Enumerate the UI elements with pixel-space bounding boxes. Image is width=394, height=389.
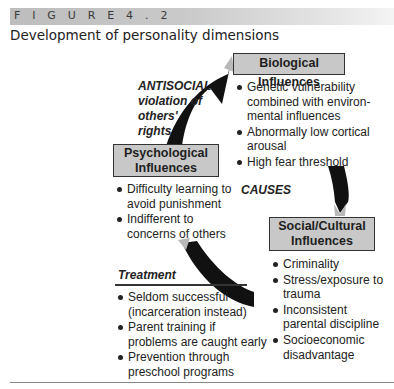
biological-influences-box: Biological Influences xyxy=(233,53,345,75)
list-item: Stress/exposure to trauma xyxy=(272,273,392,302)
list-item: High fear threshold xyxy=(236,155,386,170)
list-item: Criminality xyxy=(272,257,392,272)
list-item: Prevention through preschool programs xyxy=(117,350,267,379)
list-item: Difficulty learning to avoid punishment xyxy=(116,182,241,211)
causes-annotation: CAUSES xyxy=(241,183,291,198)
treatment-underline xyxy=(115,284,247,286)
annotation-line: violation of xyxy=(138,94,211,109)
social-title-line2: Influences xyxy=(270,234,374,249)
list-item: Parent training if problems are caught e… xyxy=(117,320,267,349)
annotation-line: others' xyxy=(138,109,211,124)
psychological-title-line2: Influences xyxy=(114,161,218,176)
biological-bullets: Genetic vulnerability combined with envi… xyxy=(236,80,386,171)
social-cultural-influences-box: Social/Cultural Influences xyxy=(269,217,375,251)
arrow-bio-to-social-icon xyxy=(328,166,349,216)
list-item: Seldom successful (incarceration instead… xyxy=(117,290,267,319)
bottom-divider xyxy=(10,382,394,383)
list-item: Inconsistent parental discipline xyxy=(272,303,392,332)
treatment-heading: Treatment xyxy=(118,268,176,283)
treatment-bullets: Seldom successful (incarceration instead… xyxy=(117,290,267,381)
social-bullets: Criminality Stress/exposure to trauma In… xyxy=(272,257,392,363)
list-item: Socioeconomic disadvantage xyxy=(272,333,392,362)
psychological-bullets: Difficulty learning to avoid punishment … xyxy=(116,182,241,242)
list-item: Genetic vulnerability combined with envi… xyxy=(236,80,386,124)
list-item: Abnormally low cortical arousal xyxy=(236,125,386,154)
social-title-line1: Social/Cultural xyxy=(270,219,374,234)
psychological-influences-box: Psychological Influences xyxy=(113,144,219,177)
list-item: Indifferent to concerns of others xyxy=(116,212,241,241)
psychological-title-line1: Psychological xyxy=(114,146,218,161)
annotation-line: ANTISOCIAL xyxy=(138,79,211,94)
annotation-line: rights xyxy=(138,124,211,139)
antisocial-annotation: ANTISOCIAL violation of others' rights xyxy=(138,79,211,139)
